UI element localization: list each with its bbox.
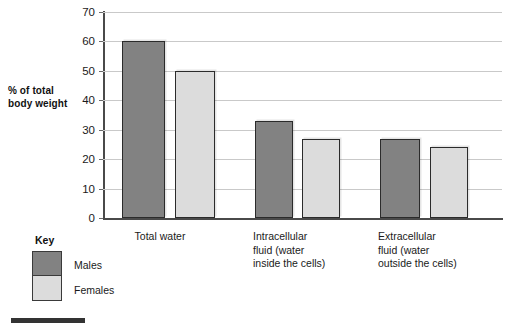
tickmark-0 (99, 218, 103, 219)
y-tick-label-70: 70 (82, 6, 95, 18)
bar-extracellular-males (380, 139, 420, 219)
plot-area: 70 60 50 40 30 20 10 (103, 12, 502, 218)
y-tick-label-10: 10 (82, 183, 95, 195)
y-tick-label-0: 0 (89, 212, 95, 224)
y-tick-label-20: 20 (82, 153, 95, 165)
x-category-extracellular-line-2: fluid (water (378, 244, 429, 256)
legend-swatch-box (32, 251, 62, 301)
gridline-70 (103, 12, 502, 13)
tickmark-30 (99, 130, 103, 131)
y-tick-label-60: 60 (82, 35, 95, 47)
tickmark-50 (99, 71, 103, 72)
y-tick-label-40: 40 (82, 94, 95, 106)
bar-total-water-females (175, 71, 215, 218)
bar-extracellular-females (430, 147, 468, 218)
bar-intracellular-males (255, 121, 293, 218)
tickmark-70 (99, 12, 103, 13)
x-category-intracellular-line-3: inside the cells) (253, 257, 325, 269)
legend-swatch-females (33, 276, 61, 300)
x-category-label-total-water: Total water (100, 230, 220, 244)
legend-label-males: Males (74, 259, 102, 271)
tickmark-20 (99, 159, 103, 160)
x-category-label-intracellular: Intracellular fluid (water inside the ce… (253, 230, 363, 271)
bar-total-water-males (122, 41, 165, 218)
y-axis-title-line-1: % of total (8, 85, 54, 96)
x-category-extracellular-line-1: Extracellular (378, 230, 436, 242)
y-tick-label-50: 50 (82, 65, 95, 77)
x-category-intracellular-line-1: Intracellular (253, 230, 307, 242)
y-tick-label-30: 30 (82, 124, 95, 136)
y-axis-title-line-2: body weight (8, 98, 67, 109)
bar-intracellular-females (302, 139, 340, 219)
tickmark-60 (99, 41, 103, 42)
y-axis-title: % of total body weight (8, 84, 80, 110)
x-category-extracellular-line-3: outside the cells) (378, 257, 457, 269)
tickmark-40 (99, 100, 103, 101)
tickmark-10 (99, 189, 103, 190)
x-category-intracellular-line-2: fluid (water (253, 244, 304, 256)
bar-chart-figure: % of total body weight 70 60 50 40 (0, 0, 513, 325)
x-axis-line (103, 218, 503, 220)
legend-swatch-males (33, 252, 61, 276)
legend-title: Key (35, 234, 54, 246)
legend-label-females: Females (74, 284, 114, 296)
bottom-rule (11, 318, 85, 323)
x-category-label-extracellular: Extracellular fluid (water outside the c… (378, 230, 498, 271)
x-category-total-water-line-1: Total water (135, 230, 186, 242)
